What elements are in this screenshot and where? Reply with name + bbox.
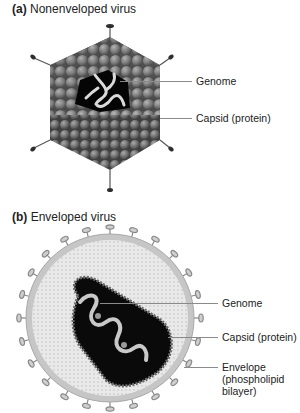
genome-label-a: Genome <box>196 75 236 87</box>
envelope-label-line2: (phospholipid <box>222 373 284 385</box>
panel-b-title: (b) Enveloped virus <box>12 210 116 224</box>
envelope-leader <box>184 367 218 368</box>
capsid-leader-a <box>160 118 192 119</box>
capsid-leader-b <box>168 337 218 338</box>
envelope-label-line1: Envelope <box>222 361 284 373</box>
capsid-label-b: Capsid (protein) <box>222 331 297 343</box>
genome-leader-a <box>120 81 192 82</box>
genome-label-b: Genome <box>222 297 262 309</box>
envelope-label-line3: bilayer) <box>222 385 284 397</box>
envelope-label: Envelope (phospholipid bilayer) <box>222 361 284 397</box>
genome-leader-b <box>100 303 218 304</box>
panel-b-letter: (b) <box>12 210 27 224</box>
nonenveloped-virus-illustration <box>0 0 300 413</box>
capsid-label-a: Capsid (protein) <box>196 112 271 124</box>
panel-b-title-text: Enveloped virus <box>31 210 116 224</box>
